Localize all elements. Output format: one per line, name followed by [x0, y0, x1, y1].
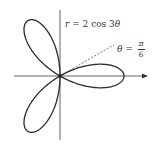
ray-numerator: π — [138, 40, 145, 50]
origin-point — [58, 74, 61, 77]
ray-equals: = — [122, 45, 135, 54]
ray-label: θ = π 6 — [117, 40, 145, 58]
ray-denominator: 6 — [139, 50, 144, 59]
x-axis-arrow-icon — [142, 74, 148, 79]
equation-label: r = 2 cos 3θ — [65, 20, 120, 29]
equation-theta: θ — [115, 19, 120, 29]
equation-body: = 2 cos 3 — [69, 19, 115, 29]
ray-fraction: π 6 — [138, 40, 145, 58]
